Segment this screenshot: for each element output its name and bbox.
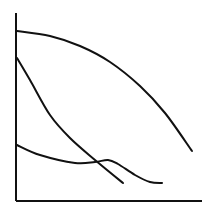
curve-3 [17, 145, 162, 183]
curve-1 [17, 31, 192, 151]
curve-2 [17, 58, 123, 183]
line-diagram [0, 0, 207, 207]
